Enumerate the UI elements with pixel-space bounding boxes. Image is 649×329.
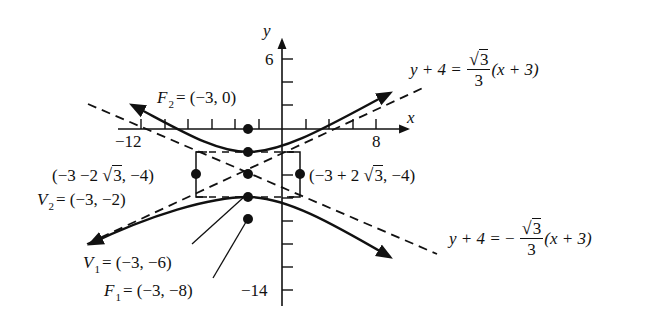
x-tick-label-8: 8 — [372, 133, 381, 150]
label-f1-coords: = (−3, −8) — [123, 281, 193, 300]
label-left-pre: (−3 −2 — [52, 166, 102, 185]
eq-neg-fraction: √3 3 — [520, 219, 543, 258]
sqrt-symbol: √3 — [102, 166, 121, 184]
leader-lines — [192, 197, 246, 278]
label-f2-name: F — [157, 88, 167, 107]
eq-neg-sign: − — [505, 229, 515, 248]
lower-branch — [90, 197, 390, 257]
label-f2-sub: 2 — [168, 98, 174, 110]
focus-f1-dot — [243, 214, 253, 224]
x-tick-label-minus12: −12 — [115, 133, 142, 150]
label-left-post: , −4) — [122, 166, 154, 185]
vertex-v1-dot — [243, 192, 253, 202]
label-focus-f2: F2= (−3, 0) — [157, 89, 236, 106]
right-box-dot — [295, 169, 305, 179]
label-v1-coords: = (−3, −6) — [102, 253, 172, 272]
label-v2-coords: = (−3, −2) — [56, 190, 126, 209]
hyperbola-diagram: y x 6 −14 −12 8 F2= (−3, 0) (−3 −2 √3, −… — [0, 0, 649, 329]
eq-pos-rhs: (x + 3) — [491, 60, 538, 79]
x-axis-label: x — [407, 109, 415, 126]
eq-neg-lhs: y + 4 = — [449, 229, 501, 248]
eq-neg-rhs: (x + 3) — [544, 229, 591, 248]
y-axis — [282, 40, 293, 306]
y-tick-label-6: 6 — [265, 51, 274, 68]
vertex-v2-dot — [243, 147, 253, 157]
label-right-pre: (−3 + 2 — [309, 166, 364, 185]
graph-canvas — [0, 0, 649, 329]
label-vertex-v2: V2= (−3, −2) — [37, 191, 126, 208]
y-axis-ticks — [282, 59, 293, 290]
focus-f2-dot — [243, 124, 253, 134]
center-dot — [243, 169, 253, 179]
label-v2-name: V — [37, 190, 47, 209]
label-focus-f1: F1= (−3, −8) — [104, 282, 193, 299]
eq-pos-fraction: √3 3 — [467, 50, 490, 89]
label-v1-name: V — [83, 253, 93, 272]
label-right-post: , −4) — [383, 166, 415, 185]
equation-asymptote-positive: y + 4 = √3 3 (x + 3) — [410, 50, 539, 89]
equation-asymptote-negative: y + 4 = − √3 3 (x + 3) — [449, 219, 592, 258]
label-right-box-point: (−3 + 2 √3, −4) — [309, 166, 415, 184]
y-axis-label: y — [263, 22, 271, 39]
y-tick-label-minus14: −14 — [241, 282, 268, 299]
label-v2-sub: 2 — [48, 200, 54, 212]
eq-pos-lhs: y + 4 = — [410, 60, 462, 79]
label-vertex-v1: V1= (−3, −6) — [83, 254, 172, 271]
left-box-dot — [191, 169, 201, 179]
points — [191, 124, 305, 224]
label-v1-sub: 1 — [94, 263, 100, 275]
label-f1-sub: 1 — [115, 291, 121, 303]
sqrt-symbol: √3 — [364, 166, 383, 184]
leader-f1 — [213, 222, 246, 278]
label-left-box-point: (−3 −2 √3, −4) — [52, 166, 154, 184]
label-f2-coords: = (−3, 0) — [176, 88, 236, 107]
label-f1-name: F — [104, 281, 114, 300]
